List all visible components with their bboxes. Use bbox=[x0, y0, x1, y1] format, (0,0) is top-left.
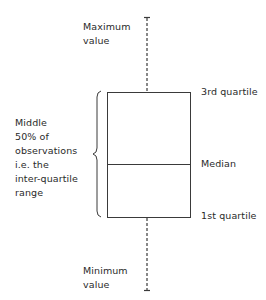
first-quartile-label: 1st quartile bbox=[201, 209, 257, 223]
maximum-label: Maximum value bbox=[83, 20, 131, 48]
minimum-label: Minimum value bbox=[83, 264, 128, 292]
maximum-label-line: value bbox=[83, 34, 131, 48]
iqr-label-line: i.e. the bbox=[15, 158, 78, 172]
iqr-label-line: 50% of bbox=[15, 130, 78, 144]
iqr-brace bbox=[93, 91, 101, 217]
minimum-label-line: Minimum bbox=[83, 264, 128, 278]
iqr-box bbox=[108, 93, 191, 218]
iqr-label-line: inter-quartile bbox=[15, 172, 78, 186]
median-label: Median bbox=[201, 157, 236, 171]
minimum-label-line: value bbox=[83, 278, 128, 292]
iqr-label-line: range bbox=[15, 186, 78, 200]
iqr-label-line: observations bbox=[15, 144, 78, 158]
iqr-label-line: Middle bbox=[15, 116, 78, 130]
third-quartile-label: 3rd quartile bbox=[201, 85, 258, 99]
iqr-label: Middle 50% of observations i.e. the inte… bbox=[15, 116, 78, 200]
maximum-label-line: Maximum bbox=[83, 20, 131, 34]
